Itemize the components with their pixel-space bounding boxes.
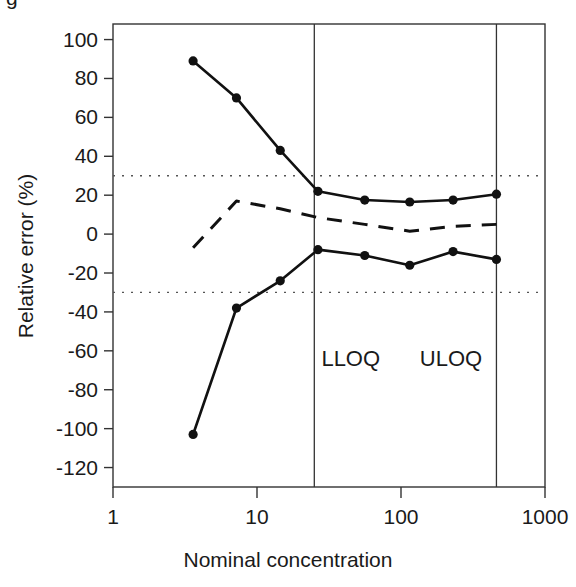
chart-figure: g 100806040200-20-40-60-80-100-120 11010… [0, 0, 576, 587]
y-tick-label: -40 [68, 300, 98, 323]
y-tick-label: -20 [68, 261, 98, 284]
data-point-upper-limit [448, 195, 457, 204]
x-axis-title: Nominal concentration [184, 548, 393, 571]
plot-annotations: LLOQULOQ [321, 346, 482, 371]
y-tick-label: 0 [86, 222, 98, 245]
x-tick-label: 100 [383, 505, 418, 528]
data-point-lower-limit [492, 255, 501, 264]
data-point-upper-limit [232, 93, 241, 102]
x-tick-label: 10 [245, 505, 268, 528]
y-tick-label: 20 [75, 183, 98, 206]
y-tick-label: -120 [56, 456, 98, 479]
data-point-lower-limit [232, 303, 241, 312]
y-tick-label: 60 [75, 105, 98, 128]
y-tick-label: 100 [63, 28, 98, 51]
y-axis-title: Relative error (%) [14, 174, 37, 339]
data-series [189, 56, 502, 439]
data-point-upper-limit [405, 197, 414, 206]
series-line-mean-bias [193, 201, 496, 248]
data-point-upper-limit [313, 187, 322, 196]
plot-canvas: 100806040200-20-40-60-80-100-120 1101001… [0, 0, 576, 587]
y-tick-label: -100 [56, 417, 98, 440]
clipped-caption-fragment: g [6, 0, 18, 10]
x-tick-label: 1 [107, 505, 119, 528]
series-line-upper-limit [193, 61, 496, 202]
data-point-lower-limit [448, 247, 457, 256]
data-point-lower-limit [313, 245, 322, 254]
data-point-lower-limit [405, 261, 414, 270]
lloq-label: LLOQ [321, 346, 380, 371]
y-tick-label: 80 [75, 66, 98, 89]
data-point-upper-limit [360, 195, 369, 204]
y-tick-label: 40 [75, 144, 98, 167]
data-point-lower-limit [360, 251, 369, 260]
y-axis-ticks: 100806040200-20-40-60-80-100-120 [56, 28, 113, 479]
data-point-lower-limit [276, 276, 285, 285]
x-axis-ticks: 1101001000 [107, 487, 568, 528]
data-point-upper-limit [492, 190, 501, 199]
data-point-lower-limit [189, 430, 198, 439]
y-tick-label: -80 [68, 378, 98, 401]
data-point-upper-limit [276, 146, 285, 155]
data-point-upper-limit [189, 56, 198, 65]
y-tick-label: -60 [68, 339, 98, 362]
uloq-label: ULOQ [420, 346, 482, 371]
x-tick-label: 1000 [522, 505, 569, 528]
series-line-lower-limit [193, 250, 496, 435]
